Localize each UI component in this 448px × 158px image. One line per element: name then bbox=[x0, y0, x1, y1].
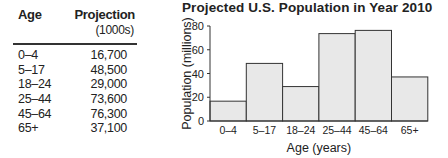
bar-45–64 bbox=[355, 30, 391, 121]
bar-0–4 bbox=[210, 101, 246, 121]
bar-65+ bbox=[392, 77, 428, 121]
bar-5–17 bbox=[246, 63, 282, 121]
x-axis-label: Age (years) bbox=[287, 141, 352, 155]
x-tick-label: 25–44 bbox=[322, 124, 351, 136]
x-tick-label: 18–24 bbox=[286, 124, 315, 136]
y-tick-label: 0 bbox=[198, 115, 204, 127]
bar-18–24 bbox=[283, 87, 319, 121]
bar-chart: 0–45–1718–2425–4445–6465+020406080Age (y… bbox=[0, 0, 448, 158]
x-tick-label: 5–17 bbox=[253, 124, 277, 136]
x-tick-label: 45–64 bbox=[359, 124, 388, 136]
x-tick-label: 65+ bbox=[401, 124, 419, 136]
x-tick-label: 0–4 bbox=[219, 124, 237, 136]
bar-25–44 bbox=[319, 34, 355, 121]
y-axis-label: Population (millions) bbox=[180, 17, 194, 130]
